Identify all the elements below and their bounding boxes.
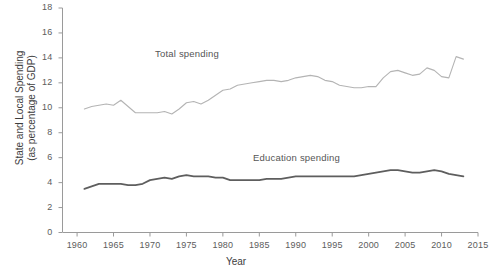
y-tick-label: 6 [37, 152, 53, 162]
x-tick-label: 1975 [171, 240, 201, 250]
x-tick-label: 1960 [62, 240, 92, 250]
x-tick-label: 2015 [463, 240, 493, 250]
x-tick-label: 2000 [354, 240, 384, 250]
x-tick-label: 1995 [317, 240, 347, 250]
x-axis-ticks [77, 233, 478, 237]
y-tick-label: 2 [37, 202, 53, 212]
y-tick-label: 18 [37, 2, 53, 12]
x-tick-label: 1985 [244, 240, 274, 250]
x-tick-label: 1980 [208, 240, 238, 250]
y-tick-label: 16 [37, 27, 53, 37]
x-tick-label: 1965 [99, 240, 129, 250]
x-tick-label: 1970 [135, 240, 165, 250]
y-axis-title-line-2: (as percentage of GDP) [26, 28, 38, 188]
x-tick-label: 1990 [281, 240, 311, 250]
y-tick-label: 14 [37, 52, 53, 62]
y-tick-label: 12 [37, 77, 53, 87]
y-tick-label: 0 [37, 227, 53, 237]
y-axis-ticks [59, 8, 63, 233]
y-tick-label: 8 [37, 127, 53, 137]
y-axis-title: State and Local Spending (as percentage … [14, 28, 38, 188]
series-label-total-spending: Total spending [155, 48, 219, 59]
x-axis-title: Year [196, 256, 276, 267]
series-line-total-spending [84, 57, 463, 114]
x-tick-label: 2010 [427, 240, 457, 250]
series-label-education-spending: Education spending [253, 152, 340, 163]
series-line-education-spending [84, 170, 463, 189]
x-tick-label: 2005 [390, 240, 420, 250]
chart-axes [59, 8, 479, 237]
y-tick-label: 10 [37, 102, 53, 112]
y-tick-label: 4 [37, 177, 53, 187]
chart-series-group [84, 57, 463, 189]
y-axis-title-line-1: State and Local Spending [14, 28, 26, 188]
